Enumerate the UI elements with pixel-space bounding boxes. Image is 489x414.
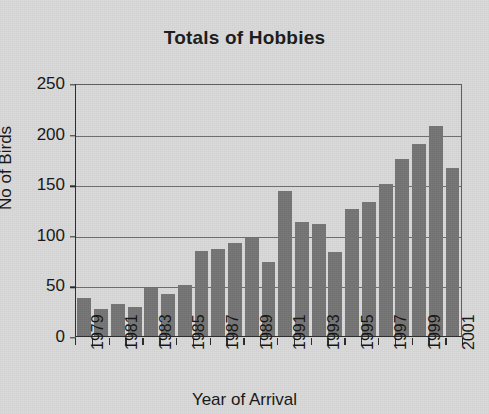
x-tick-mark bbox=[176, 338, 177, 345]
x-tick-label: 1999 bbox=[426, 314, 444, 350]
x-tick-mark bbox=[75, 338, 76, 345]
y-tick-label: 250 bbox=[13, 74, 65, 94]
x-tick-mark bbox=[445, 338, 446, 345]
x-tick-mark bbox=[210, 338, 211, 345]
bar-slot bbox=[176, 85, 193, 336]
x-tick-mark bbox=[142, 338, 143, 345]
bar-slot bbox=[377, 85, 394, 336]
bar-slot bbox=[360, 85, 377, 336]
bar bbox=[412, 144, 426, 336]
y-tick-label: 200 bbox=[13, 125, 65, 145]
bar bbox=[446, 168, 460, 336]
bar-slot bbox=[126, 85, 143, 336]
x-tick-label: 1989 bbox=[258, 314, 276, 350]
plot-area bbox=[75, 84, 462, 337]
bar-slot bbox=[277, 85, 294, 336]
bar-slot bbox=[444, 85, 461, 336]
y-axis-title: No of Birds bbox=[0, 126, 16, 210]
x-tick-label: 1979 bbox=[89, 314, 107, 350]
x-tick-mark bbox=[109, 338, 110, 345]
y-tick-label: 50 bbox=[13, 276, 65, 296]
x-tick-mark bbox=[344, 338, 345, 345]
x-tick-mark bbox=[243, 338, 244, 345]
x-tick-label: 1981 bbox=[123, 314, 141, 350]
x-tick-label: 1991 bbox=[291, 314, 309, 350]
bar-slot bbox=[427, 85, 444, 336]
bar-slot bbox=[93, 85, 110, 336]
bar-slot bbox=[327, 85, 344, 336]
bar-slot bbox=[160, 85, 177, 336]
bar-slot bbox=[260, 85, 277, 336]
bar-series bbox=[76, 85, 461, 336]
x-tick-label: 1995 bbox=[359, 314, 377, 350]
x-tick-label: 1993 bbox=[325, 314, 343, 350]
bar-slot bbox=[193, 85, 210, 336]
bar-slot bbox=[394, 85, 411, 336]
x-tick-label: 1983 bbox=[157, 314, 175, 350]
bar bbox=[345, 209, 359, 337]
bar-slot bbox=[143, 85, 160, 336]
bar-slot bbox=[243, 85, 260, 336]
x-tick-mark bbox=[412, 338, 413, 345]
x-tick-label: 1987 bbox=[224, 314, 242, 350]
x-tick-mark bbox=[378, 338, 379, 345]
bar-slot bbox=[210, 85, 227, 336]
bar bbox=[379, 184, 393, 336]
bar bbox=[429, 126, 443, 336]
bar-slot bbox=[294, 85, 311, 336]
bar-chart: Totals of Hobbies 050100150200250 No of … bbox=[0, 0, 489, 414]
y-tick-label: 0 bbox=[13, 327, 65, 347]
chart-title: Totals of Hobbies bbox=[0, 27, 489, 49]
y-tick-label: 100 bbox=[13, 226, 65, 246]
bar-slot bbox=[310, 85, 327, 336]
x-tick-mark bbox=[277, 338, 278, 345]
bar-slot bbox=[109, 85, 126, 336]
bar-slot bbox=[227, 85, 244, 336]
y-tick-label: 150 bbox=[13, 175, 65, 195]
bar bbox=[395, 159, 409, 336]
bar-slot bbox=[411, 85, 428, 336]
bar-slot bbox=[76, 85, 93, 336]
x-tick-label: 1985 bbox=[190, 314, 208, 350]
x-tick-label: 2001 bbox=[460, 314, 478, 350]
bar bbox=[245, 238, 259, 336]
bar-slot bbox=[344, 85, 361, 336]
bar bbox=[312, 224, 326, 336]
x-tick-mark bbox=[311, 338, 312, 345]
x-axis-title: Year of Arrival bbox=[0, 390, 489, 410]
x-tick-label: 1997 bbox=[392, 314, 410, 350]
